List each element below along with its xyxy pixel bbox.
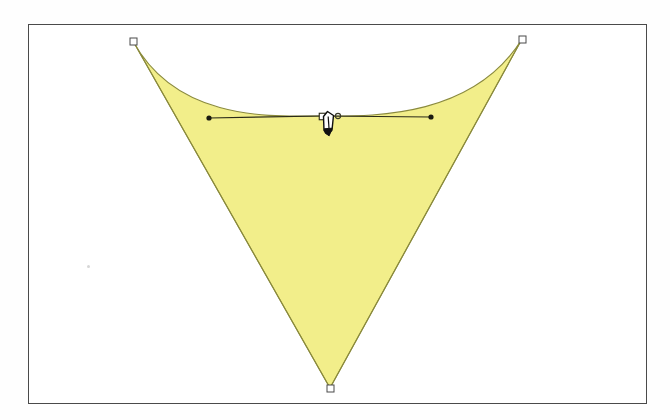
- bezier-handle-dot-left[interactable]: [206, 115, 211, 120]
- anchor-point-top-right[interactable]: [519, 36, 526, 43]
- canvas-artboard[interactable]: [28, 24, 647, 404]
- canvas-surface[interactable]: [29, 25, 646, 403]
- scan-speck-artifact: [87, 265, 90, 268]
- screenshot-root: [0, 0, 670, 420]
- bezier-handle-dot-right[interactable]: [428, 114, 433, 119]
- anchor-point-mid-top-selected[interactable]: [319, 113, 326, 120]
- anchor-point-bottom[interactable]: [327, 385, 334, 392]
- vector-graphics-layer: [29, 25, 646, 403]
- anchor-point-top-left[interactable]: [130, 38, 137, 45]
- concave-triangle-shape[interactable]: [133, 39, 522, 388]
